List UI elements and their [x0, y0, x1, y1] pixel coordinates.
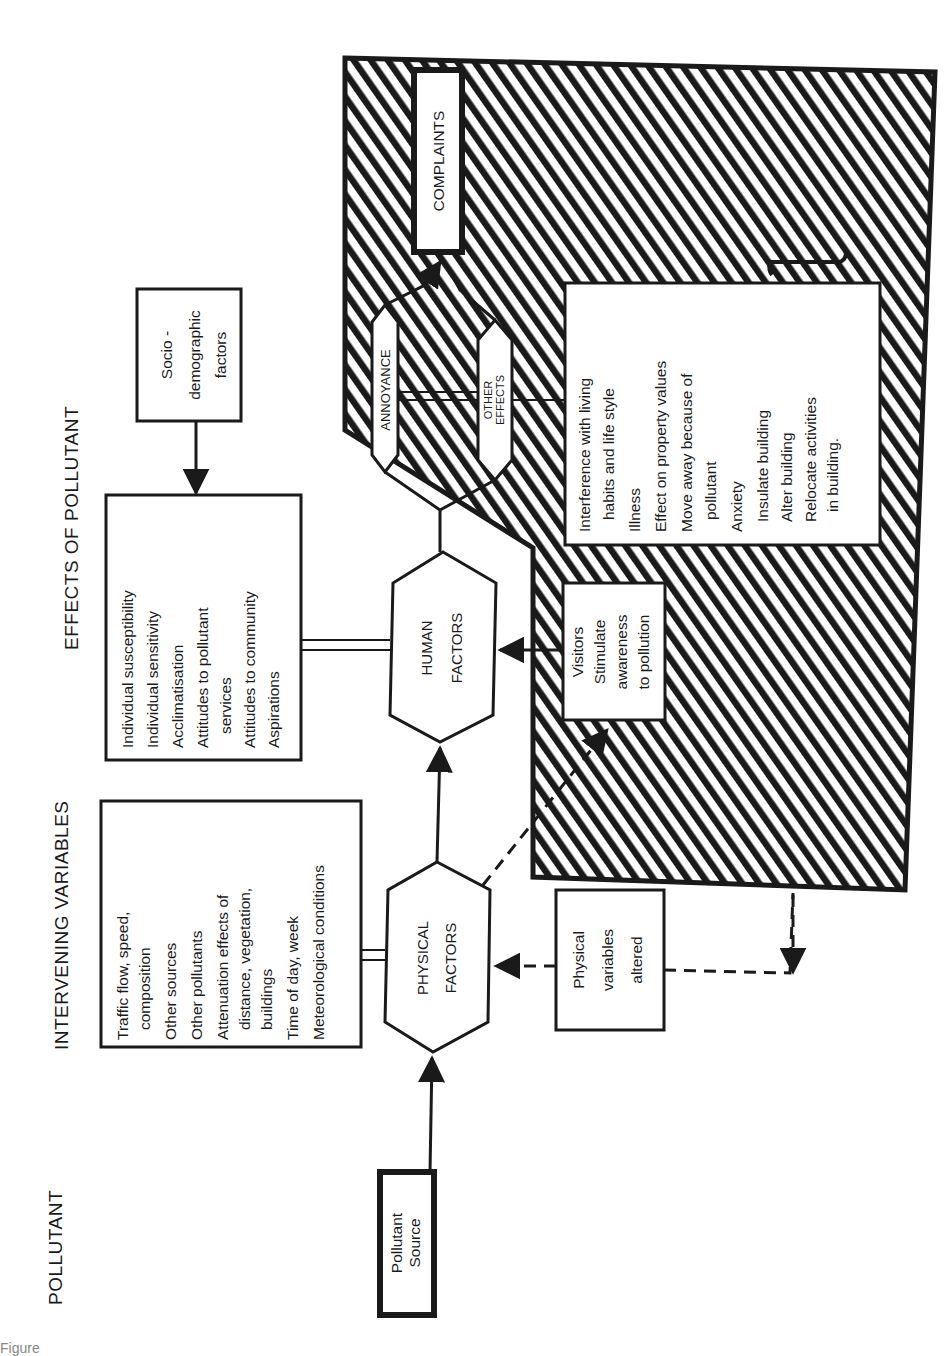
other-effects-label-1: OTHER: [482, 381, 494, 420]
socio-line1: Socio -: [158, 331, 175, 379]
human-factors-line1: HUMAN: [418, 621, 435, 676]
human-factors-node: HUMAN FACTORS: [390, 552, 496, 742]
human-variable-item: Attitudes to pollutant: [194, 607, 211, 748]
physical-variable-item: Meteorological conditions: [310, 865, 327, 1040]
annoyance-node: ANNOYANCE: [372, 305, 398, 472]
socio-line3: factors: [212, 331, 229, 378]
physical-variable-item: composition: [136, 947, 153, 1030]
human-variable-item: Individual sensitivity: [144, 611, 161, 748]
physical-variable-item: buildings: [258, 969, 275, 1030]
socio-demographic-box: Socio - demographic factors: [137, 289, 241, 421]
visitors-line4: to pollution: [635, 615, 652, 690]
pva-line1: Physical: [570, 931, 587, 989]
effect-item: habits and life style: [600, 388, 617, 520]
human-variable-item: Individual susceptibility: [119, 590, 136, 748]
figure-caption-fragment: Figure: [0, 1340, 40, 1356]
pollutant-source-box: Pollutant Source: [380, 1172, 434, 1315]
other-effects-list-box: Interference with living habits and life…: [565, 250, 880, 545]
human-variable-item: services: [217, 677, 234, 734]
effect-item: Alter building: [778, 432, 795, 522]
human-factors-line2: FACTORS: [448, 613, 465, 684]
pollutant-source-line1: Pollutant: [388, 1212, 405, 1273]
physical-variable-item: Other pollutants: [188, 930, 205, 1040]
visitors-line3: awareness: [613, 614, 630, 689]
physical-variable-item: Traffic flow, speed,: [114, 912, 131, 1040]
pva-line3: altered: [628, 936, 645, 983]
annoyance-label: ANNOYANCE: [378, 349, 393, 431]
physical-factors-line2: FACTORS: [442, 923, 459, 994]
effect-item: Anxiety: [728, 481, 745, 532]
header-pollutant: POLLUTANT: [45, 1190, 66, 1305]
visitors-line1: Visitors: [569, 626, 586, 677]
pva-line2: variables: [599, 929, 616, 991]
visitors-line2: Stimulate: [591, 620, 608, 685]
header-effects-of-pollutant: EFFECTS OF POLLUTANT: [61, 406, 82, 650]
visitors-box: Visitors Stimulate awareness to pollutio…: [563, 583, 665, 720]
effect-item: Relocate activities: [802, 397, 819, 522]
complaints-label: COMPLAINTS: [430, 111, 447, 212]
pollutant-source-line2: Source: [406, 1218, 423, 1267]
complaints-box: COMPLAINTS: [414, 70, 462, 252]
other-effects-label-2: EFFECTS: [494, 375, 506, 425]
effect-item: Move away because of: [678, 373, 695, 532]
physical-variable-item: Attenuation effects of: [214, 894, 231, 1040]
physical-factors-line1: PHYSICAL: [414, 921, 431, 995]
effect-item: Illness: [626, 488, 643, 532]
physical-variable-item: distance, vegetation,: [236, 888, 253, 1030]
effect-item: pollutant: [702, 461, 719, 520]
physical-variable-item: Time of day, week: [284, 916, 301, 1040]
human-variable-item: Acclimatisation: [169, 645, 186, 748]
effect-item: Interference with living: [576, 378, 593, 532]
physical-variable-item: Other sources: [162, 942, 179, 1040]
effect-item: Insulate building: [754, 410, 771, 522]
effect-item: in building.: [824, 438, 841, 512]
other-effects-node: OTHER EFFECTS: [478, 320, 512, 480]
physical-factors-node: PHYSICAL FACTORS: [385, 862, 490, 1052]
physical-variables-list-box: Traffic flow, speed, composition Other s…: [101, 801, 361, 1047]
human-variable-item: Attitudes to community: [241, 591, 258, 748]
pollutant-effects-diagram: COMPLAINTS ANNOYANCE OTHER EFFECTS Inter…: [0, 0, 944, 1356]
effect-item: Effect on property values: [652, 361, 669, 532]
human-variable-item: Aspirations: [265, 671, 282, 748]
header-intervening-variables: INTERVENING VARIABLES: [51, 801, 72, 1050]
human-variables-list-box: Individual susceptibility Individual sen…: [106, 495, 301, 760]
physical-variables-altered-box: Physical variables altered: [556, 890, 664, 1030]
socio-line2: demographic: [186, 310, 203, 400]
